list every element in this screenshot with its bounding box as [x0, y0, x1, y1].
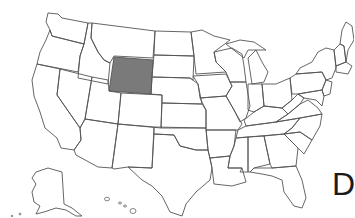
state-south-dakota: [152, 55, 194, 80]
state-pennsylvania: [290, 72, 326, 94]
state-colorado: [118, 93, 162, 128]
state-arkansas: [206, 130, 236, 158]
state-mississippi: [228, 137, 248, 172]
state-alabama: [248, 136, 270, 172]
alaska-island: [11, 215, 13, 217]
state-michigan: [226, 40, 268, 84]
state-hawaii: [105, 197, 137, 213]
state-alaska: [32, 168, 82, 216]
state-maryland-delaware: [298, 90, 324, 106]
state-new-mexico: [112, 124, 154, 169]
state-montana: [91, 23, 155, 63]
state-nebraska: [151, 77, 202, 104]
state-massachusetts-connecticut: [336, 62, 352, 74]
state-wyoming: [109, 57, 153, 94]
alaska-island: [19, 213, 21, 215]
state-arizona: [74, 119, 118, 168]
state-texas: [128, 134, 212, 216]
state-wisconsin: [214, 48, 246, 82]
state-california: [32, 64, 81, 150]
answer-letter-label: D: [332, 168, 355, 200]
state-minnesota: [191, 30, 230, 74]
state-north-dakota: [154, 31, 194, 56]
state-illinois: [226, 82, 250, 122]
state-new-york: [296, 48, 336, 80]
us-outline: [32, 13, 354, 216]
state-georgia: [264, 134, 298, 168]
state-florida: [250, 166, 306, 208]
state-maine: [340, 22, 354, 62]
state-tennessee: [236, 118, 300, 138]
state-kansas: [161, 103, 206, 128]
